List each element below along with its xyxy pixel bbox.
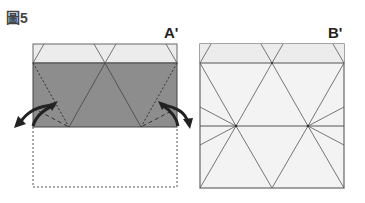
light-band [200,44,344,63]
unfolded-outline [33,127,177,187]
vertex-point [235,125,238,128]
panel-b [200,44,344,188]
vertex-point [307,125,310,128]
panel-a [14,44,193,187]
paper-square [200,44,344,188]
light-band [33,44,177,63]
diagram-canvas [0,0,365,203]
vertex-point [271,62,273,64]
dark-folded-area [33,63,177,127]
